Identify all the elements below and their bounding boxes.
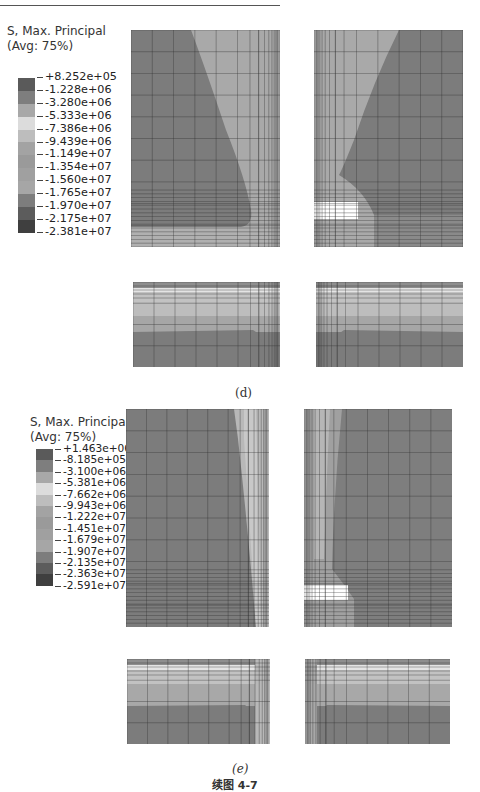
legend-d-colorbar [18, 78, 35, 233]
legend-color-band [36, 529, 53, 540]
legend-color-band [36, 472, 53, 483]
contour-plot-e-bottom-left [127, 659, 270, 744]
legend-color-band [18, 155, 35, 168]
contour-plot-e-bottom-right [305, 659, 450, 744]
legend-color-band [18, 168, 35, 181]
contour-e-top-left-svg [126, 409, 269, 627]
legend-e-tick: -2.591e+07 [55, 580, 131, 591]
legend-d-title: S, Max. Principal [7, 24, 106, 39]
contour-d-top-left-svg [131, 30, 280, 247]
legend-d: S, Max. Principal (Avg: 75%) +8.252e+05 … [7, 24, 106, 54]
legend-color-band [36, 495, 53, 506]
legend-color-band [36, 506, 53, 517]
contour-plot-d-bottom-right [316, 282, 463, 367]
legend-color-band [36, 449, 53, 460]
legend-color-band [18, 91, 35, 104]
legend-e-ticks: +1.463e+06 -8.185e+05 -3.100e+06 -5.381e… [55, 443, 131, 591]
contour-d-top-right-svg [314, 30, 463, 247]
legend-color-band [18, 117, 35, 130]
legend-d-tick: -2.381e+07 [37, 226, 117, 239]
page-top-rule [0, 5, 280, 6]
legend-e-tick: -1.679e+07 [55, 534, 131, 545]
legend-color-band [18, 78, 35, 91]
legend-d-ticks: +8.252e+05 -1.228e+06 -3.280e+06 -5.333e… [37, 71, 117, 239]
figure-title: 续图 4-7 [212, 776, 258, 792]
contour-plot-e-top-left [126, 409, 269, 627]
legend-d-tick: -1.228e+06 [37, 84, 117, 97]
contour-plot-e-top-right [304, 409, 452, 627]
legend-e-tick: -5.381e+06 [55, 477, 131, 488]
legend-color-band [18, 207, 35, 220]
contour-d-bottom-right-svg [316, 282, 463, 367]
legend-color-band [18, 130, 35, 143]
caption-e: (e) [232, 762, 248, 776]
contour-d-bottom-left-svg [133, 282, 280, 367]
legend-color-band [36, 483, 53, 494]
legend-d-tick: -2.175e+07 [37, 213, 117, 226]
legend-color-band [36, 552, 53, 563]
legend-e: S, Max. Principal (Avg: 75%) +1.463e+06 … [30, 415, 129, 445]
legend-color-band [18, 194, 35, 207]
legend-d-tick: +8.252e+05 [37, 71, 117, 84]
contour-plot-d-top-right [314, 30, 463, 247]
legend-d-tick: -7.386e+06 [37, 123, 117, 136]
legend-color-band [36, 563, 53, 574]
legend-d-tick: -5.333e+06 [37, 110, 117, 123]
contour-e-top-right-svg [304, 409, 452, 627]
legend-color-band [36, 517, 53, 528]
legend-e-colorbar [36, 449, 53, 586]
legend-color-band [36, 540, 53, 551]
legend-color-band [36, 460, 53, 471]
contour-e-bottom-left-svg [127, 659, 270, 744]
legend-e-title: S, Max. Principal [30, 415, 129, 430]
caption-d: (d) [235, 386, 252, 400]
contour-plot-d-top-left [131, 30, 280, 247]
contour-e-bottom-right-svg [305, 659, 450, 744]
legend-d-tick: -3.280e+06 [37, 97, 117, 110]
legend-color-band [36, 574, 53, 585]
legend-color-band [18, 220, 35, 233]
contour-plot-d-bottom-left [133, 282, 280, 367]
legend-color-band [18, 181, 35, 194]
legend-color-band [18, 142, 35, 155]
legend-d-subtitle: (Avg: 75%) [7, 39, 106, 54]
legend-color-band [18, 104, 35, 117]
